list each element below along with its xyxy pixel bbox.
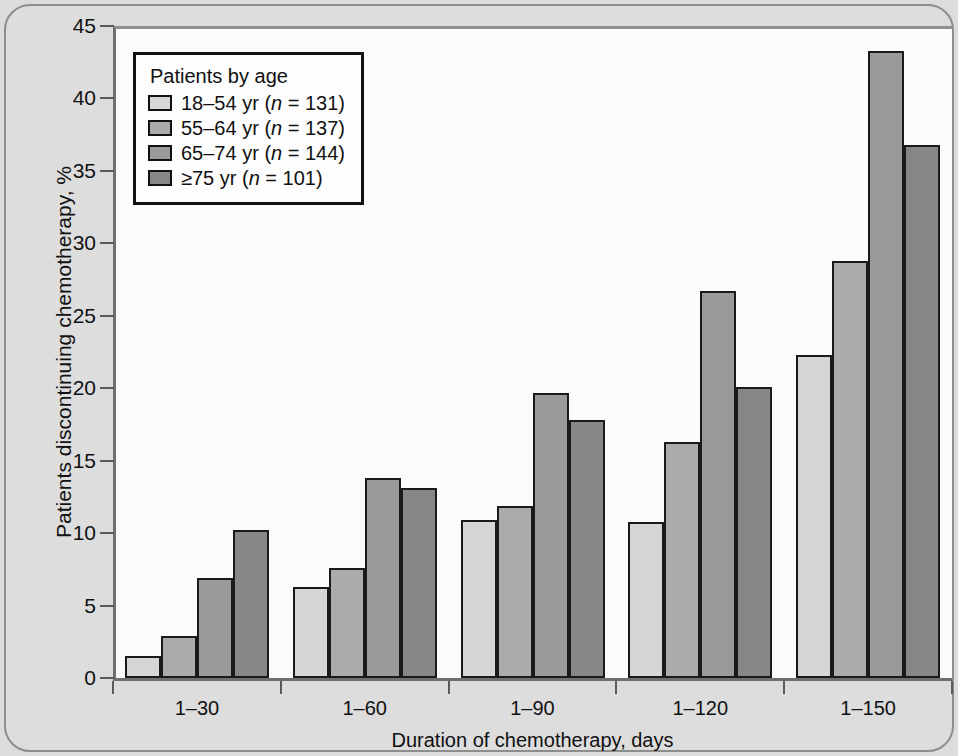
bar [832,261,868,678]
bar [401,488,437,678]
bar [569,420,605,678]
x-axis-tick [448,681,450,694]
x-axis-tick-label: 1–120 [672,697,728,720]
y-axis-tick-label: 0 [52,667,96,688]
x-axis-tick-label: 1–90 [510,697,555,720]
x-axis-tick [112,681,114,694]
y-axis-tick [100,532,114,534]
y-axis-tick [100,170,114,172]
bar [161,636,197,678]
x-axis-tick [783,681,785,694]
y-axis-tick [100,460,114,462]
y-axis-tick [100,387,114,389]
y-axis-tick [100,25,114,27]
y-axis-title: Patients discontinuing chemotherapy, % [52,42,76,662]
bar-group [796,26,940,678]
bar [293,587,329,678]
bar [700,291,736,678]
x-axis-title: Duration of chemotherapy, days [113,729,952,752]
legend-entry-label: 55–64 yr (n = 137) [181,117,345,139]
bar [197,578,233,678]
bar [533,393,569,678]
y-axis-tick [100,242,114,244]
legend-entry: 55–64 yr (n = 137) [148,117,345,139]
bar [796,355,832,678]
legend: Patients by age 18–54 yr (n = 131)55–64 … [133,52,364,205]
bar-group [628,26,772,678]
bar [497,506,533,678]
bar [233,530,269,678]
legend-swatch [148,120,172,136]
legend-entry: ≥75 yr (n = 101) [148,167,345,189]
y-axis-tick [100,605,114,607]
y-axis-tick [100,97,114,99]
x-axis-tick-label: 1–30 [175,697,220,720]
bar [904,145,940,678]
figure-root: the number of patients who had been show… [0,0,958,756]
legend-entries: 18–54 yr (n = 131)55–64 yr (n = 137)65–7… [148,92,345,189]
legend-entry-label: 65–74 yr (n = 144) [181,142,345,164]
x-axis-tick-label: 1–60 [342,697,387,720]
legend-swatch [148,95,172,111]
x-axis-tick [951,681,953,694]
y-axis-tick [100,677,114,679]
bar [461,520,497,678]
y-axis-tick-label: 45 [52,15,96,36]
y-axis-tick [100,315,114,317]
legend-entry: 18–54 yr (n = 131) [148,92,345,114]
legend-entry-label: 18–54 yr (n = 131) [181,92,345,114]
legend-entry: 65–74 yr (n = 144) [148,142,345,164]
bar [868,51,904,678]
bar [628,522,664,678]
bar [125,656,161,678]
x-axis-tick [615,681,617,694]
bar [736,387,772,678]
x-axis-line [113,678,952,681]
bar [329,568,365,678]
legend-title: Patients by age [150,65,345,88]
bar-chart: 051015202530354045 1–301–601–901–1201–15… [0,0,958,756]
legend-entry-label: ≥75 yr (n = 101) [181,167,323,189]
x-axis-tick-label: 1–150 [840,697,896,720]
legend-swatch [148,170,172,186]
bar-group [461,26,605,678]
x-axis-tick [280,681,282,694]
bar [664,442,700,678]
bar [365,478,401,678]
legend-swatch [148,145,172,161]
